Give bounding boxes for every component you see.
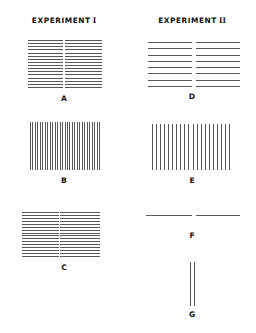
grating-a	[28, 40, 102, 88]
grating-line	[28, 46, 102, 47]
grating-line	[22, 221, 100, 222]
panel-label-e: E	[128, 176, 256, 185]
stimulus-panel-b	[30, 122, 100, 170]
grating-divider-gap	[59, 212, 60, 257]
grating-line	[22, 233, 100, 234]
grating-line	[28, 49, 102, 50]
grating-line	[22, 250, 100, 251]
grating-line	[28, 59, 102, 60]
grating-line	[35, 122, 36, 170]
grating-line	[213, 124, 214, 170]
grating-line	[52, 122, 53, 170]
grating-e	[152, 124, 230, 170]
column-header-numeral: II	[217, 16, 226, 25]
stimulus-panel-d	[148, 42, 240, 87]
grating-g	[190, 262, 195, 306]
grating-line	[28, 62, 102, 63]
grating-line	[45, 122, 46, 170]
grating-line	[28, 87, 102, 88]
panel-label-c: C	[0, 263, 128, 272]
grating-line	[22, 212, 100, 213]
grating-line	[55, 122, 56, 170]
grating-line	[201, 124, 202, 170]
stimulus-panel-f	[146, 215, 240, 219]
grating-line	[28, 53, 102, 54]
grating-line	[221, 124, 222, 170]
grating-line	[176, 124, 177, 170]
grating-divider-gap	[63, 40, 65, 88]
grating-line	[22, 241, 100, 242]
grating-line	[69, 122, 70, 170]
grating-line	[92, 122, 93, 170]
grating-line	[188, 124, 189, 170]
grating-line	[28, 74, 102, 75]
grating-line	[42, 122, 43, 170]
stimulus-figure: EXPERIMENTI EXPERIMENTII ABCDEFG	[0, 0, 256, 333]
grating-line	[84, 122, 85, 170]
grating-line	[67, 122, 68, 170]
grating-line	[164, 124, 165, 170]
grating-line	[99, 122, 100, 170]
panel-label-b: B	[0, 176, 128, 185]
grating-line	[28, 78, 102, 79]
grating-line	[22, 227, 100, 228]
column-header-experiment-1: EXPERIMENTI	[0, 16, 128, 25]
grating-divider-gap	[192, 215, 196, 219]
grating-line	[28, 68, 102, 69]
grating-line	[82, 122, 83, 170]
grating-line	[190, 262, 191, 306]
grating-d	[148, 42, 240, 87]
grating-line	[79, 122, 80, 170]
grating-line	[22, 256, 100, 257]
grating-line	[28, 43, 102, 44]
grating-line	[47, 122, 48, 170]
grating-line	[22, 238, 100, 239]
grating-line	[50, 122, 51, 170]
column-header-experiment-2: EXPERIMENTII	[128, 16, 256, 25]
column-header-label: EXPERIMENT	[32, 16, 91, 25]
grating-line	[217, 124, 218, 170]
grating-line	[229, 124, 230, 170]
grating-line	[22, 230, 100, 231]
grating-line	[197, 124, 198, 170]
grating-line	[40, 122, 41, 170]
grating-line	[57, 122, 58, 170]
grating-line	[89, 122, 90, 170]
panel-label-f: F	[128, 231, 256, 240]
stimulus-panel-a	[28, 40, 102, 88]
stimulus-panel-g	[190, 262, 195, 306]
grating-divider-gap	[192, 42, 196, 87]
grating-c	[22, 212, 100, 257]
panel-label-g: G	[128, 310, 256, 319]
grating-line	[30, 122, 31, 170]
grating-line	[205, 124, 206, 170]
grating-line	[184, 124, 185, 170]
grating-line	[60, 122, 61, 170]
grating-line	[168, 124, 169, 170]
grating-line	[77, 122, 78, 170]
grating-line	[225, 124, 226, 170]
stimulus-panel-c	[22, 212, 100, 257]
grating-line	[97, 122, 98, 170]
grating-line	[87, 122, 88, 170]
grating-line	[180, 124, 181, 170]
column-header-label: EXPERIMENT	[158, 16, 217, 25]
grating-line	[32, 122, 33, 170]
grating-line	[156, 124, 157, 170]
grating-line	[22, 224, 100, 225]
grating-line	[28, 56, 102, 57]
grating-line	[193, 124, 194, 170]
grating-line	[172, 124, 173, 170]
grating-f	[146, 215, 240, 219]
grating-line	[22, 215, 100, 216]
grating-line	[28, 65, 102, 66]
grating-line	[72, 122, 73, 170]
grating-line	[22, 253, 100, 254]
grating-line	[22, 218, 100, 219]
stimulus-panel-e	[152, 124, 230, 170]
grating-line	[160, 124, 161, 170]
grating-line	[65, 122, 66, 170]
grating-line	[22, 247, 100, 248]
grating-line	[152, 124, 153, 170]
grating-line	[74, 122, 75, 170]
